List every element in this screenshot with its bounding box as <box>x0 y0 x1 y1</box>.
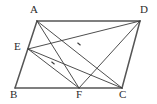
vertex-label-e: E <box>14 41 21 52</box>
vertex-label-b: B <box>10 89 17 100</box>
tick-on-ED <box>77 43 80 46</box>
side-AB <box>15 21 37 88</box>
segment-ED <box>28 21 140 49</box>
vertex-label-c: C <box>119 89 126 100</box>
geometry-figure: ADEBFC <box>0 0 157 104</box>
parallelogram-outline <box>15 21 140 88</box>
tick-on-EC <box>51 62 54 65</box>
vertex-label-a: A <box>30 4 38 15</box>
vertex-label-d: D <box>140 4 148 15</box>
congruence-tick-marks <box>51 43 80 65</box>
inner-segments <box>28 21 140 88</box>
segment-AF <box>37 21 79 88</box>
vertex-label-f: F <box>76 89 82 100</box>
segment-EF <box>28 49 79 88</box>
